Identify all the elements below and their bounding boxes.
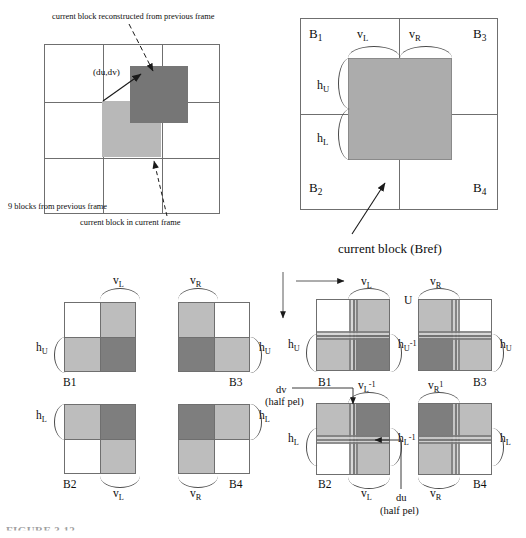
label-vl-top: vL [357,27,368,43]
d-b3-quad-tr [455,300,491,335]
label-b4-sub: 4 [482,187,487,197]
label-vr-top: vR [409,27,421,43]
label-c-vl-top: vL [113,274,124,289]
label-du: du [396,492,407,503]
motion-vector-label: (du,dv) [93,67,120,77]
panel-a-left-note: 9 blocks from previous frame [8,202,107,211]
b3-quad-bl [179,337,214,371]
label-c-vr-top: vR [190,274,201,289]
label-d-hu-left: hU [288,338,300,353]
weight-block-b1 [64,302,136,372]
arc-d-vr-top [418,288,460,300]
b1-quad-tr [100,303,135,337]
label-d-hl-left: hL [288,432,299,447]
b2-quad-br [100,439,135,473]
d-b1-hband [317,331,389,340]
label-d-hl-right: hL [500,432,511,447]
arc-d-hl-left [306,428,318,466]
arc-c-vr-top [178,288,218,300]
label-c-block-b4: B4 [229,478,242,490]
figure-caption: FIGURE 3.12 [6,524,75,536]
label-c-block-b2: B2 [63,478,76,490]
d-b2-quad-tr [353,404,389,439]
d-b2-quad-bl [317,439,353,474]
b1-quad-bl [65,337,100,371]
label-d-block-b3: B3 [473,376,486,388]
d-b3-quad-br [455,335,491,370]
label-c-vl-bottom: vL [113,487,124,502]
label-hl-left: hL [317,131,328,147]
d-b1-quad-br [353,335,389,370]
d-b2-quad-br [353,439,389,474]
label-d-vr-bottom: vR [430,487,441,502]
weight-block-b3 [178,302,250,372]
arc-d-vl-top [348,288,390,300]
label-c-block-b1: B1 [63,376,76,388]
label-du-unit: (half pel) [380,505,419,516]
b2-quad-tl [65,405,100,439]
arc-d-vl1-top [348,392,390,404]
label-b3-sub: 3 [482,33,487,43]
d-b2-hband [317,435,389,444]
arc-c-hu-left [54,337,66,373]
grid-line-h2 [45,158,219,159]
d-b1-quad-bl [317,335,353,370]
b1-quad-br [100,337,135,371]
label-b2-sub: 2 [318,187,323,197]
panel-a-top-note: current block reconstructed from previou… [52,12,215,21]
b3-quad-br [214,337,249,371]
arc-d-hu-left [306,334,318,372]
arc-d-vr1-top [418,392,460,404]
label-d-u: U [404,294,412,306]
b2-split-h [65,439,135,440]
d-b4-quad-tr [455,404,491,439]
label-c-hu-right: hU [259,341,271,356]
label-d-vl-inv: vL-1 [358,379,376,394]
b3-quad-tl [179,303,214,337]
bref-caption: current block (Bref) [338,241,442,257]
d-b1-quad-tr [353,300,389,335]
label-b1: B1 [309,26,322,43]
panel-a-bottom-note: current block in current frame [80,218,180,227]
d-b4-quad-bl [419,439,455,474]
label-b3: B3 [473,26,486,43]
b4-quad-bl [179,439,214,473]
label-c-vr-bottom: vR [190,487,201,502]
b2-quad-bl [65,439,100,473]
label-b2: B2 [309,180,322,197]
label-d-block-b1: B1 [318,376,331,388]
d-b3-hband [419,331,491,340]
label-d-vr-top: vR [430,275,441,290]
label-c-hl-right: hL [259,409,270,424]
label-dv: dv [276,384,287,395]
d-b1-quad-tl [317,300,353,335]
halfpel-block-b4 [418,403,492,475]
arc-c-vl-top [100,288,140,300]
label-dv-unit: (half pel) [265,396,304,407]
halfpel-block-b3 [418,299,492,371]
panel-previous-frame [44,44,220,214]
halfpel-block-b2 [316,403,390,475]
d-b3-quad-bl [419,335,455,370]
b1-split-h [65,337,135,338]
weight-block-b4 [178,404,250,474]
b4-quad-tr [214,405,249,439]
halfpel-block-b1 [316,299,390,371]
panel-bref [300,18,498,210]
label-hu-left: hU [317,78,329,94]
b3-quad-tr [214,303,249,337]
label-c-hl-left: hL [36,409,47,424]
label-c-block-b3: B3 [229,376,242,388]
label-d-vl-bottom: vL [361,487,372,502]
d-b4-quad-tl [419,404,455,439]
b4-quad-tl [179,405,214,439]
b1-quad-tl [65,303,100,337]
b3-split-h [179,337,249,338]
d-b4-quad-br [455,439,491,474]
b4-quad-br [214,439,249,473]
label-c-hu-left: hU [36,341,48,356]
arc-c-hl-left [54,404,66,440]
label-d-block-b2: B2 [318,478,331,490]
d-b2-quad-tl [317,404,353,439]
label-b4: B4 [473,180,486,197]
